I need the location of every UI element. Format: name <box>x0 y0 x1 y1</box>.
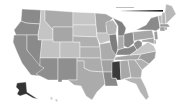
state-wi[interactable] <box>106 20 117 35</box>
state-ut[interactable] <box>40 40 60 58</box>
state-nj[interactable] <box>154 31 158 40</box>
us-choropleth-map <box>0 0 183 111</box>
state-sd[interactable] <box>73 25 97 37</box>
state-nd[interactable] <box>73 12 96 25</box>
state-ma[interactable] <box>160 24 170 27</box>
state-ks[interactable] <box>80 47 101 58</box>
state-ak[interactable] <box>16 82 38 99</box>
state-hi[interactable] <box>50 97 58 102</box>
state-co[interactable] <box>60 42 80 58</box>
legend <box>116 7 163 12</box>
state-in[interactable] <box>118 36 124 50</box>
state-ri[interactable] <box>165 27 167 30</box>
state-ct[interactable] <box>160 27 165 31</box>
state-wy[interactable] <box>53 27 73 42</box>
state-ms[interactable] <box>112 61 121 80</box>
legend-gradient-bar <box>121 10 163 12</box>
state-ny[interactable] <box>136 16 160 31</box>
state-me[interactable] <box>165 4 176 24</box>
state-fl[interactable] <box>124 78 149 100</box>
state-wa[interactable] <box>21 9 41 24</box>
legend-title-placeholder <box>116 7 134 8</box>
state-de[interactable] <box>154 40 156 44</box>
state-nm[interactable] <box>58 58 77 82</box>
